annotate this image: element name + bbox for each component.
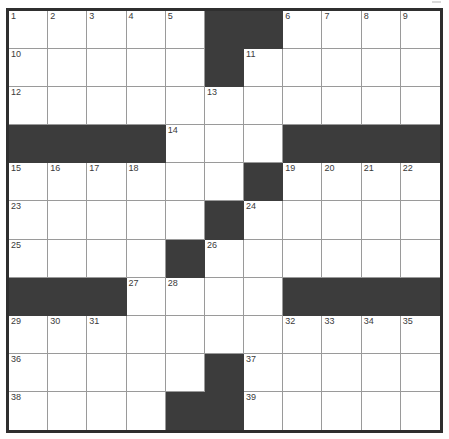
crossword-open-cell[interactable]: 2 bbox=[48, 11, 87, 49]
crossword-open-cell[interactable] bbox=[283, 392, 322, 430]
crossword-open-cell[interactable] bbox=[322, 49, 361, 87]
crossword-open-cell[interactable] bbox=[48, 354, 87, 392]
crossword-open-cell[interactable]: 37 bbox=[244, 354, 283, 392]
crossword-open-cell[interactable] bbox=[244, 278, 283, 316]
crossword-open-cell[interactable] bbox=[362, 392, 401, 430]
crossword-page: 1234567891011121314151617181920212223242… bbox=[0, 0, 449, 439]
crossword-open-cell[interactable] bbox=[244, 87, 283, 125]
crossword-open-cell[interactable] bbox=[401, 87, 440, 125]
crossword-open-cell[interactable] bbox=[362, 201, 401, 239]
crossword-open-cell[interactable]: 36 bbox=[9, 354, 48, 392]
crossword-open-cell[interactable]: 27 bbox=[127, 278, 166, 316]
crossword-open-cell[interactable]: 19 bbox=[283, 163, 322, 201]
crossword-open-cell[interactable] bbox=[127, 392, 166, 430]
crossword-open-cell[interactable] bbox=[127, 87, 166, 125]
crossword-open-cell[interactable]: 18 bbox=[127, 163, 166, 201]
crossword-open-cell[interactable] bbox=[322, 87, 361, 125]
crossword-open-cell[interactable]: 8 bbox=[362, 11, 401, 49]
crossword-open-cell[interactable] bbox=[205, 163, 244, 201]
crossword-open-cell[interactable] bbox=[283, 240, 322, 278]
crossword-open-cell[interactable] bbox=[322, 201, 361, 239]
crossword-open-cell[interactable]: 21 bbox=[362, 163, 401, 201]
crossword-open-cell[interactable] bbox=[166, 201, 205, 239]
crossword-open-cell[interactable] bbox=[127, 201, 166, 239]
crossword-open-cell[interactable] bbox=[166, 163, 205, 201]
crossword-open-cell[interactable] bbox=[127, 49, 166, 87]
crossword-open-cell[interactable]: 11 bbox=[244, 49, 283, 87]
crossword-open-cell[interactable] bbox=[205, 316, 244, 354]
crossword-open-cell[interactable] bbox=[362, 240, 401, 278]
crossword-open-cell[interactable] bbox=[401, 392, 440, 430]
crossword-open-cell[interactable] bbox=[401, 201, 440, 239]
crossword-open-cell[interactable]: 29 bbox=[9, 316, 48, 354]
crossword-open-cell[interactable]: 14 bbox=[166, 125, 205, 163]
crossword-open-cell[interactable] bbox=[87, 87, 126, 125]
crossword-open-cell[interactable]: 15 bbox=[9, 163, 48, 201]
cell-number: 38 bbox=[11, 392, 21, 403]
crossword-open-cell[interactable]: 13 bbox=[205, 87, 244, 125]
crossword-open-cell[interactable] bbox=[87, 354, 126, 392]
crossword-open-cell[interactable]: 26 bbox=[205, 240, 244, 278]
crossword-open-cell[interactable] bbox=[127, 240, 166, 278]
crossword-open-cell[interactable]: 33 bbox=[322, 316, 361, 354]
crossword-open-cell[interactable] bbox=[401, 49, 440, 87]
crossword-open-cell[interactable]: 6 bbox=[283, 11, 322, 49]
crossword-open-cell[interactable] bbox=[362, 87, 401, 125]
crossword-open-cell[interactable]: 7 bbox=[322, 11, 361, 49]
crossword-open-cell[interactable] bbox=[87, 392, 126, 430]
crossword-open-cell[interactable] bbox=[401, 354, 440, 392]
crossword-open-cell[interactable] bbox=[244, 316, 283, 354]
crossword-open-cell[interactable] bbox=[283, 87, 322, 125]
crossword-open-cell[interactable]: 4 bbox=[127, 11, 166, 49]
crossword-open-cell[interactable] bbox=[322, 240, 361, 278]
crossword-open-cell[interactable]: 25 bbox=[9, 240, 48, 278]
crossword-open-cell[interactable] bbox=[127, 354, 166, 392]
crossword-open-cell[interactable] bbox=[48, 240, 87, 278]
crossword-open-cell[interactable]: 22 bbox=[401, 163, 440, 201]
crossword-open-cell[interactable] bbox=[166, 354, 205, 392]
crossword-open-cell[interactable]: 16 bbox=[48, 163, 87, 201]
crossword-open-cell[interactable] bbox=[48, 201, 87, 239]
crossword-open-cell[interactable]: 39 bbox=[244, 392, 283, 430]
crossword-open-cell[interactable]: 3 bbox=[87, 11, 126, 49]
crossword-open-cell[interactable]: 34 bbox=[362, 316, 401, 354]
crossword-open-cell[interactable] bbox=[87, 240, 126, 278]
crossword-open-cell[interactable]: 32 bbox=[283, 316, 322, 354]
crossword-open-cell[interactable]: 9 bbox=[401, 11, 440, 49]
crossword-open-cell[interactable] bbox=[362, 354, 401, 392]
crossword-open-cell[interactable] bbox=[166, 316, 205, 354]
crossword-open-cell[interactable] bbox=[205, 278, 244, 316]
crossword-open-cell[interactable] bbox=[166, 87, 205, 125]
crossword-open-cell[interactable]: 20 bbox=[322, 163, 361, 201]
crossword-open-cell[interactable]: 24 bbox=[244, 201, 283, 239]
crossword-open-cell[interactable]: 12 bbox=[9, 87, 48, 125]
crossword-open-cell[interactable] bbox=[322, 392, 361, 430]
crossword-open-cell[interactable]: 30 bbox=[48, 316, 87, 354]
crossword-open-cell[interactable]: 5 bbox=[166, 11, 205, 49]
crossword-open-cell[interactable] bbox=[87, 49, 126, 87]
crossword-open-cell[interactable]: 28 bbox=[166, 278, 205, 316]
crossword-open-cell[interactable]: 1 bbox=[9, 11, 48, 49]
crossword-open-cell[interactable] bbox=[362, 49, 401, 87]
crossword-open-cell[interactable]: 38 bbox=[9, 392, 48, 430]
crossword-open-cell[interactable] bbox=[322, 354, 361, 392]
crossword-open-cell[interactable]: 17 bbox=[87, 163, 126, 201]
crossword-open-cell[interactable]: 10 bbox=[9, 49, 48, 87]
crossword-open-cell[interactable] bbox=[48, 49, 87, 87]
crossword-open-cell[interactable] bbox=[283, 49, 322, 87]
crossword-open-cell[interactable] bbox=[166, 49, 205, 87]
crossword-open-cell[interactable] bbox=[244, 125, 283, 163]
crossword-grid[interactable]: 1234567891011121314151617181920212223242… bbox=[9, 11, 440, 430]
crossword-open-cell[interactable] bbox=[401, 240, 440, 278]
crossword-open-cell[interactable]: 35 bbox=[401, 316, 440, 354]
crossword-open-cell[interactable] bbox=[283, 201, 322, 239]
crossword-open-cell[interactable] bbox=[87, 201, 126, 239]
crossword-open-cell[interactable]: 23 bbox=[9, 201, 48, 239]
crossword-open-cell[interactable] bbox=[127, 316, 166, 354]
crossword-open-cell[interactable] bbox=[283, 354, 322, 392]
crossword-open-cell[interactable] bbox=[244, 240, 283, 278]
crossword-open-cell[interactable] bbox=[48, 87, 87, 125]
crossword-open-cell[interactable] bbox=[205, 125, 244, 163]
crossword-open-cell[interactable] bbox=[48, 392, 87, 430]
crossword-open-cell[interactable]: 31 bbox=[87, 316, 126, 354]
